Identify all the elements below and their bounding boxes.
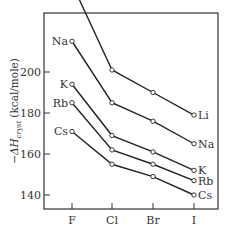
data-point xyxy=(192,193,196,197)
data-point xyxy=(151,162,155,166)
series-cs: CsCs xyxy=(54,125,212,202)
data-point xyxy=(70,129,74,133)
series-label-left: K xyxy=(60,78,69,91)
data-point xyxy=(110,68,114,72)
data-point xyxy=(151,174,155,178)
y-tick-label: 180 xyxy=(20,107,41,120)
series-label-right: Cs xyxy=(198,189,212,202)
data-point xyxy=(70,101,74,105)
series-label-left: Cs xyxy=(54,125,68,138)
x-tick-label: Cl xyxy=(106,214,118,227)
y-tick-label: 200 xyxy=(20,66,41,79)
series-label-right: Rb xyxy=(198,175,213,188)
x-tick-label: F xyxy=(68,214,76,227)
series-li: LiLi xyxy=(57,0,209,122)
data-point xyxy=(151,150,155,154)
data-point xyxy=(151,119,155,123)
series-na: NaNa xyxy=(52,35,215,151)
data-point xyxy=(110,101,114,105)
series-line xyxy=(72,41,194,144)
series-rb: RbRb xyxy=(53,97,214,188)
series-k: KK xyxy=(60,78,207,177)
series-line xyxy=(72,131,194,195)
x-tick-label: I xyxy=(192,214,196,227)
series-label-right: Na xyxy=(198,138,215,151)
series-group: LiLiNaNaKKRbRbCsCs xyxy=(52,0,215,202)
y-axis: 140160180200240 xyxy=(20,0,50,202)
data-point xyxy=(110,162,114,166)
data-point xyxy=(110,133,114,137)
lattice-energy-chart: 140160180200240 FClBrI LiLiNaNaKKRbRbCsC… xyxy=(0,0,229,232)
y-tick-label: 160 xyxy=(20,148,41,161)
data-point xyxy=(70,39,74,43)
data-point xyxy=(151,90,155,94)
data-point xyxy=(192,178,196,182)
series-label-right: Li xyxy=(198,109,209,122)
data-point xyxy=(192,168,196,172)
series-label-left: Rb xyxy=(53,97,68,110)
series-line xyxy=(72,0,194,115)
x-axis: FClBrI xyxy=(68,203,196,227)
data-point xyxy=(70,82,74,86)
data-point xyxy=(110,148,114,152)
y-tick-label: 140 xyxy=(20,189,41,202)
x-tick-label: Br xyxy=(146,214,160,227)
data-point xyxy=(192,113,196,117)
data-point xyxy=(192,142,196,146)
series-label-left: Na xyxy=(52,35,69,48)
series-line xyxy=(72,103,194,181)
